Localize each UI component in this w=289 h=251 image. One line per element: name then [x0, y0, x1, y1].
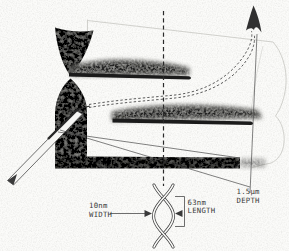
length-label-caption: LENGTH — [188, 206, 216, 215]
bottom-band — [57, 158, 238, 168]
width-label-caption: WIDTH — [89, 210, 112, 219]
depth-label-caption: DEPTH — [237, 196, 260, 205]
schematic-svg: 10nm WIDTH 63nm LENGTH 1.5μm DEPTH — [0, 0, 289, 251]
figure-schematic: 10nm WIDTH 63nm LENGTH 1.5μm DEPTH — [0, 0, 289, 251]
bottom-band-faint-extension — [240, 159, 265, 167]
